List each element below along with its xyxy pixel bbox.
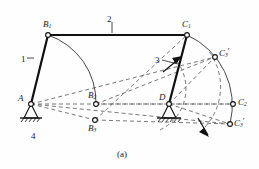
link-number-3: 3 [155,56,160,65]
point-label-A: A [18,94,24,104]
joint-B3 [93,118,98,123]
link-1-A-B1 [31,35,48,104]
link-number-1: 1 [21,55,26,64]
dashed-A-to-C3prime [31,57,215,104]
arrow-head-down [199,128,209,137]
point-label-C3-prime: C3′ [219,48,230,59]
figure-caption: (a) [117,150,127,159]
point-label-C1: C1 [182,20,191,30]
dashed-B3-to-C1 [95,35,187,120]
point-label-D: D [159,93,166,102]
point-label-C3: C3′ [234,118,245,129]
joint-markers [29,33,236,127]
joint-C3 [228,122,233,127]
point-label-B1: B1 [43,20,51,30]
point-label-B3: B3 [88,124,96,134]
joint-C1 [185,33,190,38]
link-number-2: 2 [107,15,112,24]
diagram-canvas [0,0,259,169]
joint-B1 [46,33,51,38]
joint-A [29,102,34,107]
link-number-4: 4 [31,132,36,141]
joint-C3-prime [213,55,218,60]
joint-C2 [231,102,236,107]
joint-D [167,102,172,107]
construction-lines [31,35,233,124]
swing-arcs [48,35,232,124]
mechanism-diagram: A B1 B2 B3 C1 C2 C3′ C3′ D 1 2 3 4 (a) [0,0,259,169]
point-label-C2: C2 [238,98,247,108]
dashed-arcs [160,50,221,132]
joint-B2 [94,102,99,107]
point-label-B2: B2 [88,91,96,101]
